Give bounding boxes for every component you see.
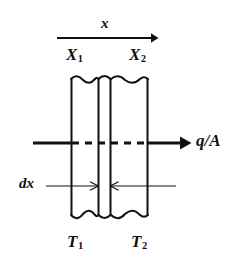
heat-flux-label: q/A [196, 132, 221, 149]
temperature-right-symbol: T [131, 232, 141, 251]
position-left-symbol: X [66, 45, 77, 64]
axis-direction-label: x [101, 16, 109, 31]
temperature-right-label: T2 [131, 233, 147, 252]
temperature-left-subscript: 1 [78, 240, 83, 251]
heat-conduction-figure: x X1 X2 q/A dx T1 T2 [0, 0, 238, 272]
position-right-label: X2 [129, 46, 146, 65]
element-thickness-label: dx [19, 176, 34, 191]
position-right-symbol: X [129, 45, 140, 64]
position-left-subscript: 1 [78, 53, 83, 64]
temperature-right-subscript: 2 [142, 240, 147, 251]
temperature-left-label: T1 [67, 233, 83, 252]
differential-element [95, 76, 111, 218]
x-direction-arrow [57, 33, 159, 43]
heat-flux-arrow [33, 136, 192, 149]
position-left-label: X1 [66, 46, 83, 65]
temperature-left-symbol: T [67, 232, 77, 251]
position-right-subscript: 2 [141, 53, 146, 64]
